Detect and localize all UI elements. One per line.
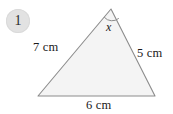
geometry-figure: 1 x 7 cm 5 cm 6 cm: [0, 0, 173, 114]
side-label-right: 5 cm: [137, 47, 162, 60]
question-number-label: 1: [6, 9, 30, 33]
side-label-base: 6 cm: [86, 99, 111, 112]
question-number-badge: 1: [6, 9, 30, 33]
side-label-left: 7 cm: [33, 41, 58, 54]
angle-label-x: x: [106, 21, 111, 33]
